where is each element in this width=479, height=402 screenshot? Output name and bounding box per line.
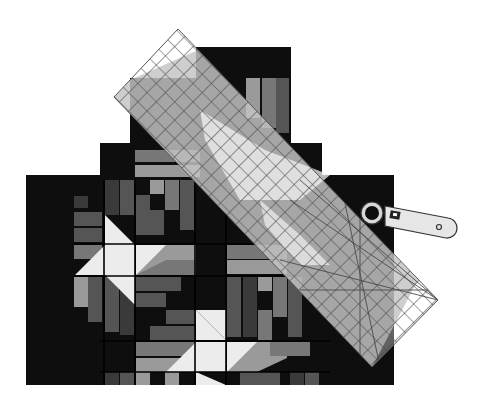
illustration (0, 0, 479, 402)
quilt-scene (0, 0, 479, 402)
